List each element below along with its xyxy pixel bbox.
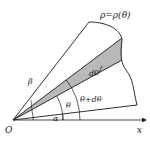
polar-area-diagram: ρ=ρ(θ) O x α β θ θ+dθ dθ	[0, 0, 150, 144]
alpha-label: α	[53, 114, 59, 123]
theta-plus-dtheta-label: θ+dθ	[80, 95, 102, 104]
curve-label: ρ=ρ(θ)	[99, 10, 131, 20]
beta-label: β	[27, 77, 33, 86]
theta-label: θ	[66, 101, 71, 110]
ray-theta	[13, 60, 122, 120]
arc-beta	[32, 111, 33, 121]
origin-label: O	[5, 125, 13, 135]
x-axis-label: x	[137, 125, 142, 135]
dtheta-label: dθ	[89, 69, 99, 78]
